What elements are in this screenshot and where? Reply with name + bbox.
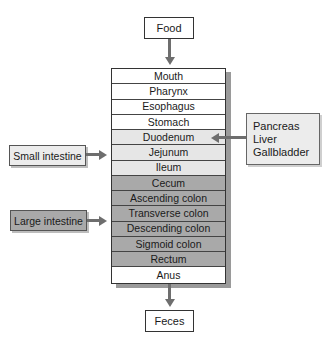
tract-label: Ileum: [156, 162, 182, 173]
small-intestine-arrow-shaft: [86, 153, 100, 156]
large-intestine-arrow-head-icon: [99, 216, 107, 226]
tract-label: Esophagus: [142, 101, 195, 112]
tract-label: Rectum: [150, 254, 186, 265]
tract-label: Ascending colon: [130, 193, 207, 204]
accessory-organ-liver: Liver: [253, 133, 319, 146]
feces-box: Feces: [145, 310, 194, 332]
tract-row-transverse-colon: Transverse colon: [112, 206, 225, 221]
tract-row-pharynx: Pharynx: [112, 84, 225, 99]
accessory-organ-pancreas: Pancreas: [253, 120, 319, 133]
small-intestine-label-box: Small intestine: [9, 145, 86, 166]
accessory-arrow-head-icon: [211, 133, 219, 143]
tract-row-rectum: Rectum: [112, 252, 225, 267]
tract-row-ileum: Ileum: [112, 161, 225, 176]
tract-row-ascending-colon: Ascending colon: [112, 191, 225, 206]
tract-row-descending-colon: Descending colon: [112, 222, 225, 237]
tract-label: Descending colon: [127, 223, 210, 234]
food-label: Food: [156, 22, 181, 34]
tract-label: Anus: [157, 270, 181, 281]
tract-label: Transverse colon: [128, 208, 208, 219]
tract-row-jejunum: Jejunum: [112, 145, 225, 160]
digestive-tract-stack: Mouth Pharynx Esophagus Stomach Duodenum…: [111, 68, 226, 284]
tract-label: Cecum: [152, 178, 185, 189]
large-intestine-label: Large intestine: [14, 215, 83, 227]
feces-arrow-head-icon: [165, 299, 175, 307]
accessory-arrow-shaft: [218, 136, 246, 139]
feces-arrow-shaft: [168, 284, 171, 300]
tract-row-cecum: Cecum: [112, 176, 225, 191]
food-arrow-shaft: [168, 39, 171, 58]
tract-row-duodenum: Duodenum: [112, 130, 225, 145]
tract-row-esophagus: Esophagus: [112, 100, 225, 115]
tract-row-anus: Anus: [112, 267, 225, 282]
large-intestine-label-box: Large intestine: [10, 210, 87, 231]
tract-row-sigmoid-colon: Sigmoid colon: [112, 237, 225, 252]
accessory-organs-box: Pancreas Liver Gallbladder: [246, 113, 320, 165]
tract-label: Stomach: [148, 117, 189, 128]
food-box: Food: [144, 17, 194, 39]
tract-label: Duodenum: [143, 132, 194, 143]
feces-label: Feces: [155, 315, 185, 327]
tract-label: Sigmoid colon: [136, 239, 202, 250]
food-arrow-head-icon: [165, 57, 175, 65]
small-intestine-arrow-head-icon: [99, 150, 107, 160]
tract-row-mouth: Mouth: [112, 69, 225, 84]
tract-label: Jejunum: [149, 147, 189, 158]
small-intestine-label: Small intestine: [13, 150, 81, 162]
tract-label: Mouth: [154, 71, 183, 82]
tract-label: Pharynx: [149, 86, 188, 97]
accessory-organ-gallbladder: Gallbladder: [253, 146, 319, 159]
tract-row-stomach: Stomach: [112, 115, 225, 130]
